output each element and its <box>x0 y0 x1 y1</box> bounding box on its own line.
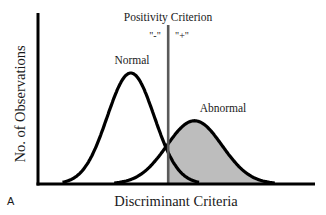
y-axis-label: No. of Observations <box>12 45 28 163</box>
decision-threshold-diagram: Positivity Criterion "-" "+" Normal Abno… <box>0 0 326 215</box>
x-axis-label: Discriminant Criteria <box>114 193 238 209</box>
abnormal-label: Abnormal <box>200 102 247 114</box>
positive-label: "+" <box>175 30 189 41</box>
normal-label: Normal <box>114 54 149 66</box>
panel-label: A <box>7 195 15 207</box>
negative-label: "-" <box>149 30 161 41</box>
criterion-label: Positivity Criterion <box>124 11 213 24</box>
